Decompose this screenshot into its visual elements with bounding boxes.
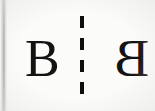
scan-gutter-edge: [0, 0, 7, 111]
original-letter: B: [25, 33, 60, 85]
mirror-line-axis: [80, 16, 84, 98]
mirror-symmetry-figure: B B: [0, 0, 155, 111]
mirrored-letter: B: [114, 33, 149, 85]
